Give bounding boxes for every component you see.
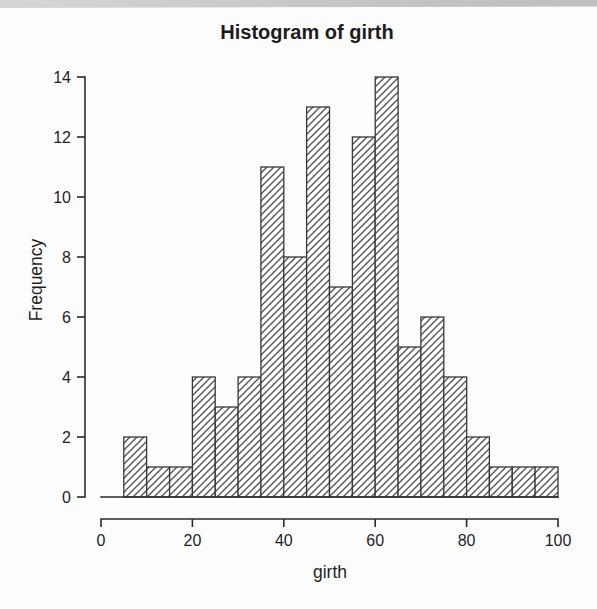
histogram-bar <box>238 377 261 497</box>
y-axis-ticks: 02468101214 <box>53 69 85 506</box>
x-tick-label: 60 <box>366 532 384 549</box>
histogram-bar <box>215 407 238 497</box>
histogram-bar <box>352 137 375 497</box>
x-axis-label: girth <box>313 562 347 582</box>
histogram-chart: Histogram of girth 02468101214 020406080… <box>0 0 597 609</box>
x-tick-label: 0 <box>97 532 106 549</box>
y-tick-label: 6 <box>62 309 71 326</box>
y-tick-label: 10 <box>53 189 71 206</box>
x-tick-label: 80 <box>458 532 476 549</box>
y-tick-label: 8 <box>62 249 71 266</box>
histogram-bar <box>421 317 444 497</box>
histogram-bar <box>467 437 490 497</box>
y-tick-label: 12 <box>53 129 71 146</box>
histogram-bar <box>192 377 215 497</box>
bars-group <box>124 77 558 497</box>
x-tick-label: 40 <box>275 532 293 549</box>
histogram-bar <box>284 257 307 497</box>
histogram-bar <box>512 467 535 497</box>
histogram-bar <box>489 467 512 497</box>
histogram-bar <box>444 377 467 497</box>
histogram-bar <box>170 467 193 497</box>
chart-title: Histogram of girth <box>220 21 393 43</box>
histogram-bar <box>330 287 353 497</box>
x-tick-label: 20 <box>184 532 202 549</box>
histogram-bar <box>124 437 147 497</box>
histogram-bar <box>147 467 170 497</box>
scanned-figure: Histogram of girth 02468101214 020406080… <box>0 0 597 609</box>
y-axis-label: Frequency <box>26 238 46 321</box>
y-tick-label: 4 <box>62 369 71 386</box>
histogram-bar <box>261 167 284 497</box>
y-tick-label: 14 <box>53 69 71 86</box>
y-tick-label: 0 <box>62 489 71 506</box>
x-axis-ticks: 020406080100 <box>97 519 572 549</box>
histogram-bar <box>375 77 398 497</box>
histogram-bar <box>307 107 330 497</box>
x-tick-label: 100 <box>545 532 572 549</box>
y-tick-label: 2 <box>62 429 71 446</box>
histogram-bar <box>535 467 558 497</box>
histogram-bar <box>398 347 421 497</box>
